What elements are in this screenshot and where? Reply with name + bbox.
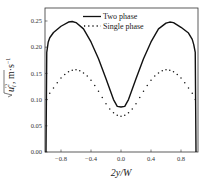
series-point-single-phase [46, 99, 48, 101]
series-point-single-phase [113, 112, 115, 114]
series-point-single-phase [120, 116, 122, 118]
series-point-single-phase [192, 93, 194, 95]
series-point-single-phase [75, 69, 77, 71]
y-tick-label: 0.10 [31, 96, 42, 103]
series-point-single-phase [147, 85, 149, 87]
series-point-single-phase [53, 87, 55, 89]
y-tick-label: 0.00 [31, 148, 42, 155]
series-point-single-phase [90, 79, 92, 81]
y-axis-label-text: ui'2, m·s−1 [4, 58, 17, 92]
y-tick-label: 0.20 [31, 43, 42, 50]
series-point-single-phase [98, 90, 100, 92]
legend: Two phase Single phase [83, 12, 144, 31]
series-point-single-phase [49, 93, 51, 95]
series-point-single-phase [64, 74, 66, 76]
x-tick-label: 0.8 [177, 155, 185, 162]
series-point-single-phase [83, 72, 85, 74]
series-point-single-phase [154, 75, 156, 77]
series-layer [46, 22, 196, 152]
x-tick-label: −0.4 [85, 155, 98, 162]
series-point-single-phase [177, 74, 179, 76]
series-point-single-phase [68, 71, 70, 73]
series-point-single-phase [109, 108, 111, 110]
series-point-single-phase [102, 97, 104, 99]
x-axis-label: 2y/W [111, 167, 133, 178]
series-point-single-phase [128, 112, 130, 114]
series-point-single-phase [165, 69, 167, 71]
series-point-single-phase [169, 70, 171, 72]
y-tick-label: 0.25 [31, 17, 42, 24]
series-point-single-phase [173, 71, 175, 73]
legend-label-single-phase: Single phase [103, 22, 144, 31]
series-point-single-phase [60, 77, 62, 79]
series-point-single-phase [162, 70, 164, 72]
series-point-single-phase [117, 115, 119, 117]
series-point-single-phase [188, 87, 190, 89]
series-point-single-phase [57, 82, 59, 84]
y-tick-label: 0.05 [31, 122, 42, 129]
series-point-single-phase [180, 77, 182, 79]
series-point-single-phase [124, 115, 126, 117]
series-point-single-phase [195, 99, 197, 101]
series-point-single-phase [105, 103, 107, 105]
series-point-single-phase [139, 97, 141, 99]
series-line-two-phase [46, 22, 196, 152]
y-tick-label: 0.15 [31, 70, 42, 77]
x-tick-label: −0.8 [55, 155, 67, 162]
legend-label-two-phase: Two phase [103, 12, 138, 21]
x-tick-label: 0.0 [117, 155, 125, 162]
series-point-single-phase [150, 79, 152, 81]
y-axis-label: ui'2, m·s−1 [4, 58, 17, 97]
chart: −0.8−0.40.00.40.8 0.000.050.100.150.200.… [0, 0, 207, 183]
series-point-single-phase [79, 70, 81, 72]
series-point-single-phase [158, 72, 160, 74]
series-point-single-phase [143, 90, 145, 92]
series-point-single-phase [72, 70, 74, 72]
x-axis-ticks: −0.8−0.40.00.40.8 [55, 150, 185, 163]
series-point-single-phase [94, 85, 96, 87]
series-point-single-phase [184, 82, 186, 84]
x-tick-label: 0.4 [147, 155, 156, 162]
series-point-single-phase [87, 75, 89, 77]
series-point-single-phase [132, 108, 134, 110]
series-point-single-phase [135, 103, 137, 105]
